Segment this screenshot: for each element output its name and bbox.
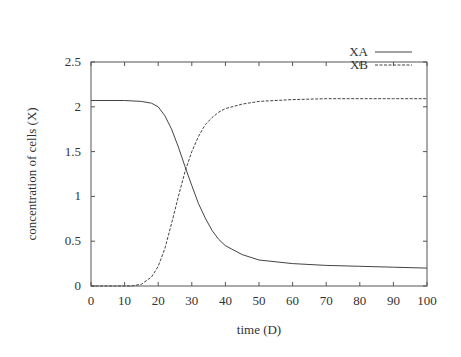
x-tick-label: 60	[286, 293, 299, 308]
plot-area: 010203040506070809010000.511.522.5	[65, 54, 437, 308]
x-tick-label: 80	[353, 293, 366, 308]
y-tick-label: 1	[75, 188, 82, 203]
x-tick-label: 50	[253, 293, 266, 308]
y-axis-label: concentration of cells (X)	[24, 107, 39, 240]
x-tick-label: 0	[88, 293, 95, 308]
legend: XAXB	[349, 44, 412, 72]
plot-frame	[91, 62, 427, 286]
x-axis-label: time (D)	[237, 322, 281, 337]
x-tick-label: 30	[185, 293, 198, 308]
x-tick-label: 70	[320, 293, 333, 308]
series-lines	[91, 99, 427, 286]
y-tick-label: 0	[75, 278, 82, 293]
x-tick-label: 90	[387, 293, 400, 308]
series-xa	[91, 101, 427, 269]
x-tick-label: 40	[219, 293, 232, 308]
y-tick-label: 2.5	[65, 54, 81, 69]
line-chart: 010203040506070809010000.511.522.5 XAXB …	[0, 0, 461, 357]
y-tick-label: 1.5	[65, 144, 81, 159]
x-tick-label: 20	[152, 293, 165, 308]
series-xb	[91, 99, 427, 286]
y-tick-label: 2	[75, 99, 82, 114]
y-tick-label: 0.5	[65, 233, 81, 248]
legend-label-xb: XB	[350, 57, 368, 72]
x-tick-label: 100	[417, 293, 437, 308]
x-tick-label: 10	[118, 293, 131, 308]
